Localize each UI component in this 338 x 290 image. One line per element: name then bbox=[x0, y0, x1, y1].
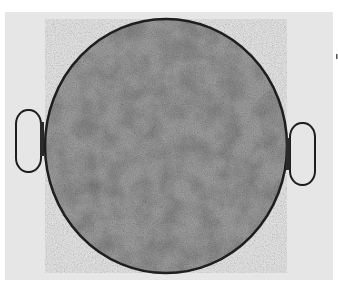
pan-surface bbox=[40, 15, 295, 277]
left-handle bbox=[16, 110, 41, 172]
edge-mark bbox=[336, 54, 338, 59]
left-handle-bracket bbox=[40, 122, 44, 156]
right-handle bbox=[290, 123, 315, 185]
right-handle-bracket bbox=[286, 138, 290, 170]
pan-illustration bbox=[0, 0, 338, 290]
